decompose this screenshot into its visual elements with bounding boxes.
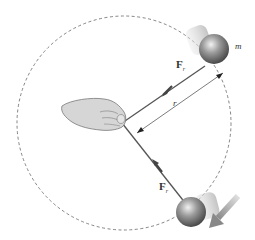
radius-arrowhead-inner bbox=[137, 127, 144, 133]
hand bbox=[62, 98, 126, 130]
force-arrow-top bbox=[163, 86, 172, 95]
force-label-bottom: Fr bbox=[159, 180, 168, 194]
radius-label: r bbox=[173, 98, 177, 108]
radius-arrowhead-outer bbox=[216, 73, 223, 79]
mass-ball-bottom bbox=[176, 197, 206, 227]
diagram-canvas bbox=[0, 0, 255, 240]
mass-label: m bbox=[235, 41, 242, 51]
radius-dimension bbox=[137, 73, 223, 133]
mass-ball-top bbox=[199, 34, 229, 64]
force-label-top: Fr bbox=[176, 58, 185, 72]
